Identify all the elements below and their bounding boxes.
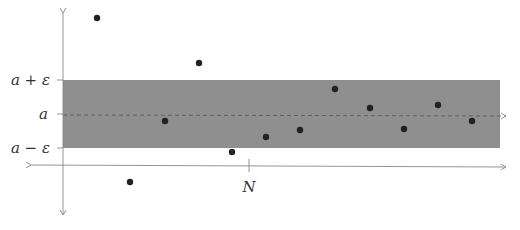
sequence-point [229, 149, 235, 155]
sequence-point [435, 102, 441, 108]
label-middle: a [39, 105, 48, 123]
sequence-point [401, 126, 407, 132]
label-upper: a + ε [11, 71, 50, 89]
epsilon-band [63, 80, 500, 148]
sequence-point [332, 86, 338, 92]
sequence-point [263, 134, 269, 140]
sequence-point [297, 127, 303, 133]
label-n: N [241, 178, 256, 196]
sequence-point [196, 60, 202, 66]
x-axis [31, 165, 506, 167]
sequence-point [127, 179, 133, 185]
sequence-point [162, 118, 168, 124]
convergence-diagram: a + ε a a − ε N [0, 0, 520, 230]
sequence-point [469, 118, 475, 124]
sequence-point [367, 105, 373, 111]
sequence-point [94, 15, 100, 21]
label-lower: a − ε [11, 139, 50, 157]
